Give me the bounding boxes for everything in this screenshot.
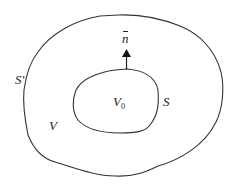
inner-surface-label: S [163,95,170,108]
outer-region-label: V [49,119,57,132]
outer-surface-label: S' [15,73,24,86]
normal-vector-arrowhead [122,49,131,57]
inner-region-label: V0 [113,95,125,111]
normal-vector-label: n [122,32,129,45]
